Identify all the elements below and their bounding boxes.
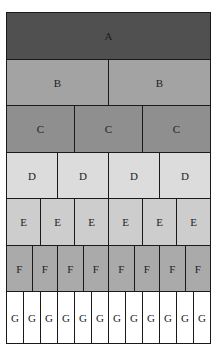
cell-g: G (160, 292, 176, 343)
row-b: BB (7, 60, 210, 105)
cell-b: B (7, 60, 108, 105)
cell-f: F (33, 246, 58, 291)
cell-g: G (41, 292, 57, 343)
cell-g: G (143, 292, 159, 343)
cell-e: E (75, 199, 108, 245)
cell-g: G (177, 292, 193, 343)
row-d: DDDD (7, 153, 210, 198)
cell-b: B (109, 60, 210, 105)
cell-d: D (58, 153, 108, 198)
cell-e: E (143, 199, 176, 245)
cell-g: G (24, 292, 40, 343)
cell-f: F (58, 246, 83, 291)
cell-g: G (109, 292, 125, 343)
cell-f: F (135, 246, 160, 291)
cell-c: C (7, 106, 74, 152)
cell-g: G (58, 292, 74, 343)
row-a: A (7, 13, 210, 59)
cell-g: G (7, 292, 23, 343)
row-e: EEEEEE (7, 199, 210, 245)
cell-d: D (160, 153, 210, 198)
cell-c: C (143, 106, 210, 152)
cell-f: F (84, 246, 109, 291)
cell-d: D (7, 153, 57, 198)
cell-f: F (7, 246, 32, 291)
cell-a: A (7, 13, 210, 59)
cell-f: F (186, 246, 211, 291)
partition-grid: ABBCCCDDDDEEEEEEFFFFFFFFGGGGGGGGGGGG (6, 12, 211, 344)
cell-c: C (75, 106, 142, 152)
row-g: GGGGGGGGGGGG (7, 292, 210, 343)
cell-g: G (92, 292, 108, 343)
cell-g: G (126, 292, 142, 343)
cell-f: F (109, 246, 134, 291)
row-f: FFFFFFFF (7, 246, 210, 291)
cell-f: F (160, 246, 185, 291)
cell-e: E (7, 199, 40, 245)
cell-g: G (75, 292, 91, 343)
row-c: CCC (7, 106, 210, 152)
cell-d: D (109, 153, 159, 198)
cell-e: E (109, 199, 142, 245)
cell-e: E (177, 199, 210, 245)
cell-g: G (194, 292, 210, 343)
cell-e: E (41, 199, 74, 245)
